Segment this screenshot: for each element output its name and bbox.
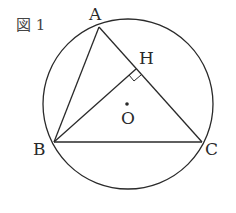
right-angle-marker bbox=[129, 75, 141, 81]
segment-ab bbox=[54, 27, 99, 142]
segment-ac bbox=[99, 27, 202, 142]
segment-bh bbox=[54, 69, 136, 142]
geometry-diagram: 図 1 A H O B C bbox=[0, 0, 236, 213]
label-h: H bbox=[139, 48, 154, 68]
center-dot bbox=[125, 102, 129, 106]
label-b: B bbox=[33, 139, 46, 159]
label-o: O bbox=[121, 108, 135, 128]
label-a: A bbox=[88, 4, 102, 24]
figure-caption: 図 1 bbox=[16, 16, 45, 34]
label-c: C bbox=[205, 139, 218, 159]
